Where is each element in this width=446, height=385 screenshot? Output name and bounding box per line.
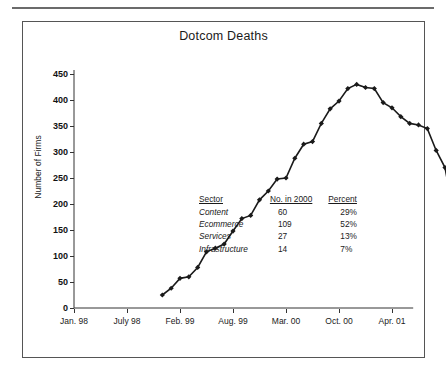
series-data-point — [283, 175, 288, 180]
chart-plot-area — [23, 22, 426, 359]
cell-number: 109 — [256, 218, 312, 230]
series-data-point — [310, 139, 315, 144]
cell-percent: 52% — [312, 218, 357, 230]
series-line — [162, 84, 446, 295]
header-percent: Percent — [312, 194, 357, 206]
table-header-row: Sector No. in 2000 Percent — [199, 194, 357, 206]
cell-sector: Content — [199, 206, 256, 218]
table-row: Services2713% — [199, 230, 357, 242]
chart-figure-frame: Dotcom Deaths Number of Firms 0501001502… — [22, 21, 425, 358]
sector-breakdown-table: Sector No. in 2000 Percent Content6029%E… — [199, 194, 357, 255]
table-row: Infrastructure147% — [199, 243, 357, 255]
cell-number: 14 — [256, 243, 312, 255]
cell-number: 60 — [256, 206, 312, 218]
cell-percent: 29% — [312, 206, 357, 218]
series-data-point — [363, 85, 368, 90]
top-divider-rule — [12, 7, 434, 9]
series-data-point — [354, 82, 359, 87]
table-row: Content6029% — [199, 206, 357, 218]
series-data-point — [425, 126, 430, 131]
axis-lines — [74, 70, 413, 308]
cell-percent: 7% — [312, 243, 357, 255]
cell-sector: Services — [199, 230, 256, 242]
cell-sector: Infrastructure — [199, 243, 256, 255]
header-number: No. in 2000 — [256, 194, 312, 206]
table-row: Ecommerce10952% — [199, 218, 357, 230]
cell-number: 27 — [256, 230, 312, 242]
header-sector: Sector — [199, 194, 256, 206]
cell-percent: 13% — [312, 230, 357, 242]
series-marker-group — [160, 82, 446, 298]
series-data-point — [416, 122, 421, 127]
cell-sector: Ecommerce — [199, 218, 256, 230]
